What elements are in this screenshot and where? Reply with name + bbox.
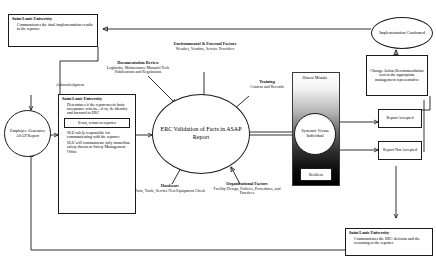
node-honest-mistake: Honest Mistake	[294, 76, 336, 81]
label-environmental-external: Environmental & External Factors Weather…	[163, 42, 247, 51]
node-slu-final[interactable]: Saint Louis University Communicates the …	[8, 14, 98, 47]
node-systemic-versus-individual-label: Systemic Versus Individual	[295, 129, 335, 139]
bullet: Determines if the report meets basic acc…	[67, 103, 132, 116]
node-slu-final-bullets: Communicates the final implementation re…	[12, 23, 94, 32]
label-acknowledgment-text: Acknowledgment	[56, 82, 84, 87]
bullet: SLU will communicate only immediate safe…	[67, 141, 132, 154]
node-slu-erc-decision-header: Saint Louis University	[349, 231, 429, 236]
node-slu-erc-decision-bullets: Communicates the ERC decision and the re…	[349, 237, 429, 246]
node-employee-generates-label: Employee Generates ASAP Report	[5, 129, 50, 139]
bullet: Communicates the final implementation re…	[17, 23, 94, 32]
node-report-not-accepted[interactable]: Report Not Accepted	[378, 141, 422, 160]
node-erc-validation-label: ERC Validation of Facts in ASAP Report	[153, 126, 249, 142]
node-slu-determines[interactable]: Saint Louis University Determines if the…	[58, 94, 136, 214]
node-slu-determines-bullets: Determines if the report meets basic acc…	[62, 103, 132, 116]
node-erc-validation[interactable]: ERC Validation of Facts in ASAP Report	[152, 94, 250, 174]
flowchart-canvas: Saint Louis University Communicates the …	[0, 0, 436, 260]
bullet: SLU solely responsible for communicating…	[67, 131, 132, 140]
node-systemic-versus-individual[interactable]: Systemic Versus Individual	[294, 113, 336, 155]
label-acknowledgment: Acknowledgment	[42, 83, 98, 88]
node-slu-determines-header: Saint Louis University	[62, 97, 132, 102]
node-implementation-confirmed-label: Implementation Confirmed	[379, 31, 425, 36]
bullet: Communicates the ERC decision and the re…	[354, 237, 429, 246]
node-slu-final-header: Saint Louis University	[12, 17, 94, 22]
node-employee-generates[interactable]: Employee Generates ASAP Report	[4, 110, 51, 157]
inner-note-text: If not, return to reporter	[67, 121, 127, 125]
label-training: Training Content and Records	[240, 80, 294, 89]
node-change-action-label: Change Action Recommendation sent to the…	[370, 69, 424, 82]
label-documentation-review: Documentation Review Logbooks, Maintenan…	[100, 61, 176, 75]
node-change-action[interactable]: Change Action Recommendation sent to the…	[366, 55, 428, 96]
label-organizational-factors: Organizational Factors Facility Design, …	[208, 182, 286, 196]
node-honest-mistake-label: Honest Mistake	[302, 75, 327, 80]
node-reckless[interactable]: Reckless	[300, 168, 332, 181]
node-slu-determines-bullets2: SLU solely responsible for communicating…	[62, 131, 132, 154]
label-organizational-factors-detail: Facility Design, Policies, Procedures, a…	[214, 186, 281, 196]
label-hardware-detail: Parts, Tools, Service/Test Equipment Che…	[135, 188, 205, 193]
label-documentation-review-detail: Logbooks, Maintenance Manuals/Tech Publi…	[107, 65, 169, 75]
node-reckless-label: Reckless	[309, 172, 323, 177]
node-report-accepted[interactable]: Report Accepted	[378, 109, 422, 128]
label-hardware: Hardware Parts, Tools, Service/Test Equi…	[134, 184, 206, 193]
node-implementation-confirmed[interactable]: Implementation Confirmed	[371, 17, 433, 49]
node-report-accepted-label: Report Accepted	[387, 116, 414, 120]
node-slu-determines-inner-note: If not, return to reporter	[64, 118, 130, 128]
label-environmental-external-detail: Weather, Vendors, Service Providers	[176, 46, 234, 51]
node-report-not-accepted-label: Report Not Accepted	[383, 148, 417, 152]
label-training-detail: Content and Records	[250, 84, 284, 89]
node-slu-erc-decision[interactable]: Saint Louis University Communicates the …	[345, 228, 433, 256]
